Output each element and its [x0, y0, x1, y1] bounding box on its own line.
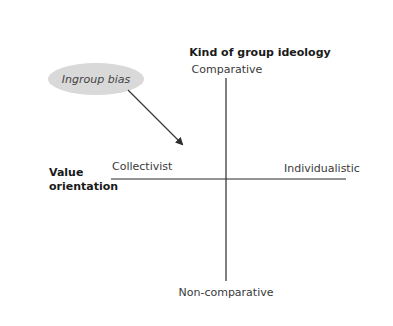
- axis-label-individualistic: Individualistic: [284, 162, 360, 175]
- axis-title-line-1: Value: [49, 166, 118, 180]
- quadrant-diagram: Kind of group ideology Comparative Non-c…: [0, 0, 393, 326]
- horizontal-axis-title: Value orientation: [49, 166, 118, 194]
- axis-label-collectivist: Collectivist: [112, 160, 172, 173]
- diagram-title: Kind of group ideology: [189, 46, 330, 59]
- axis-title-line-2: orientation: [49, 180, 118, 194]
- bias-arrow: [128, 90, 182, 144]
- axis-label-non-comparative: Non-comparative: [178, 286, 273, 299]
- axis-label-comparative: Comparative: [192, 63, 263, 76]
- ingroup-bias-label: Ingroup bias: [62, 73, 130, 86]
